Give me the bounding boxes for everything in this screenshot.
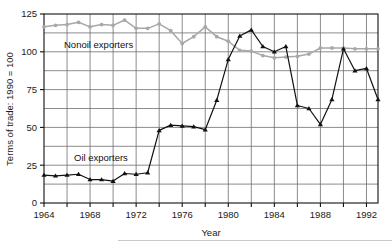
data-point-marker (157, 22, 161, 26)
x-tick-label: 1980 (218, 209, 239, 220)
x-tick-label: 1988 (310, 209, 331, 220)
x-tick-label: 1976 (172, 209, 193, 220)
data-point-marker (203, 25, 207, 29)
data-point-marker (319, 46, 323, 50)
series-label-2: Oil exporters (74, 152, 128, 163)
y-tick-label: 50 (26, 122, 37, 133)
data-point-marker (134, 26, 138, 30)
data-point-marker (180, 42, 184, 46)
data-point-marker (192, 35, 196, 39)
y-tick-label: 75 (26, 84, 37, 95)
data-point-marker (169, 29, 173, 33)
y-axis-title: Terms of trade: 1990 = 100 (4, 52, 15, 166)
x-tick-label: 1984 (264, 209, 285, 220)
data-point-marker (88, 25, 92, 29)
y-tick-label: 125 (21, 8, 37, 19)
x-tick-label: 1992 (356, 209, 377, 220)
y-tick-label: 100 (21, 46, 37, 57)
data-point-marker (111, 23, 115, 27)
data-point-marker (307, 52, 311, 56)
data-point-marker (353, 47, 357, 51)
data-point-marker (261, 54, 265, 58)
data-point-marker (238, 48, 242, 52)
x-axis-title: Year (201, 227, 220, 238)
x-tick-label: 1968 (79, 209, 100, 220)
data-point-marker (330, 46, 334, 50)
terms-of-trade-line-chart: 0255075100125196419681972197619801984198… (0, 0, 392, 244)
data-point-marker (65, 23, 69, 27)
chart-figure: 0255075100125196419681972197619801984198… (0, 0, 392, 244)
y-tick-label: 0 (32, 197, 37, 208)
data-point-marker (77, 20, 81, 24)
data-point-marker (249, 49, 253, 53)
data-point-marker (295, 54, 299, 58)
data-point-marker (365, 47, 369, 51)
data-point-marker (376, 47, 380, 51)
x-tick-label: 1964 (33, 209, 54, 220)
data-point-marker (146, 26, 150, 30)
chart-background (0, 0, 392, 244)
data-point-marker (100, 23, 104, 27)
series-label-1: Nonoil exporters (64, 39, 133, 50)
y-tick-label: 25 (26, 160, 37, 171)
data-point-marker (272, 56, 276, 60)
data-point-marker (226, 39, 230, 43)
x-tick-label: 1972 (126, 209, 147, 220)
data-point-marker (123, 18, 127, 22)
data-point-marker (42, 25, 46, 29)
data-point-marker (215, 35, 219, 39)
data-point-marker (54, 23, 58, 27)
